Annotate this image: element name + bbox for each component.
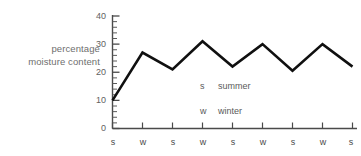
chart-figure: percentage moisture content 40 30 20 10 … — [0, 0, 361, 156]
chart-plot-area — [0, 0, 361, 156]
data-series-line — [113, 41, 353, 100]
axes-group — [113, 15, 358, 129]
x-major-ticks — [113, 123, 353, 129]
